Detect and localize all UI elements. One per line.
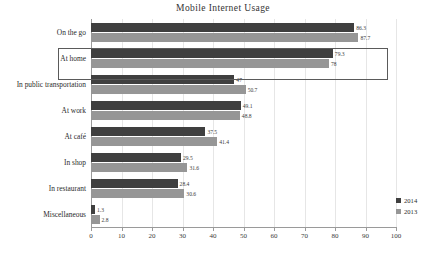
bar-group: 49.148.8 [91,100,396,120]
category-label: In restaurant [49,184,86,193]
bar-value-label: 48.8 [242,113,252,119]
x-axis-tick-label: 100 [391,232,402,240]
legend-item-2013[interactable]: 2013 [396,207,442,215]
bar-value-label: 87.7 [360,35,370,41]
bar-value-label: 28.4 [180,181,190,187]
bar-group: 4750.7 [91,74,396,94]
x-axis-tick [396,228,397,231]
chart-container: Mobile Internet Usage On the go86.387.7A… [0,0,446,262]
legend-swatch-icon [396,198,401,203]
chart-category-row: In shop29.531.6 [91,149,396,175]
bar-value-label: 2.8 [102,217,109,223]
bar-group: 28.430.6 [91,178,396,198]
x-axis-tick-label: 10 [118,232,125,240]
x-axis-tick-label: 70 [301,232,308,240]
legend-label: 2013 [404,208,417,215]
bar-value-label: 50.7 [248,87,258,93]
chart-category-row: Miscellaneous1.32.8 [91,201,396,227]
x-axis-tick [305,228,306,231]
bar-2014: 28.4 [91,179,178,188]
bar-2013: 78 [91,59,329,68]
category-label: Miscellaneous [43,210,86,219]
bar-value-label: 49.1 [243,103,253,109]
bar-2013: 87.7 [91,33,358,42]
bar-2013: 30.6 [91,189,184,198]
bar-2013: 41.4 [91,137,217,146]
bar-value-label: 79.3 [335,51,345,57]
x-axis-tick-label: 30 [179,232,186,240]
bar-value-label: 37.5 [207,129,217,135]
category-label: In public transportation [17,80,86,89]
chart-title: Mobile Internet Usage [0,3,446,13]
x-axis-tick-label: 60 [271,232,278,240]
bar-group: 29.531.6 [91,152,396,172]
bar-2014: 47 [91,75,234,84]
bar-2013: 31.6 [91,163,187,172]
bar-value-label: 30.6 [186,191,196,197]
category-label: At work [62,106,86,115]
x-axis-tick-label: 20 [149,232,156,240]
x-axis-tick-label: 50 [240,232,247,240]
bar-group: 79.378 [91,48,396,68]
bar-group: 37.541.4 [91,126,396,146]
bar-2014: 49.1 [91,101,241,110]
x-axis-tick [183,228,184,231]
x-axis-tick-label: 80 [332,232,339,240]
chart-category-row: At work49.148.8 [91,97,396,123]
chart-category-row: At home79.378 [91,45,396,71]
chart-category-row: On the go86.387.7 [91,19,396,45]
chart-legend: 20142013 [396,196,442,218]
chart-category-row: In public transportation4750.7 [91,71,396,97]
bar-value-label: 1.3 [97,207,104,213]
bar-2014: 1.3 [91,205,95,214]
legend-item-2014[interactable]: 2014 [396,196,442,204]
x-axis-tick [213,228,214,231]
bar-value-label: 78 [331,61,337,67]
category-label: On the go [57,28,86,37]
bar-value-label: 41.4 [219,139,229,145]
bar-value-label: 31.6 [189,165,199,171]
chart-category-row: At café37.541.4 [91,123,396,149]
plot-area: On the go86.387.7At home79.378In public … [91,19,396,227]
category-label: At café [64,132,86,141]
category-label: In shop [64,158,86,167]
x-axis-tick [274,228,275,231]
category-label: At home [60,54,86,63]
bar-2013: 48.8 [91,111,240,120]
x-axis-tick [335,228,336,231]
chart-category-row: In restaurant28.430.6 [91,175,396,201]
legend-swatch-icon [396,209,401,214]
bar-value-label: 47 [236,77,242,83]
bar-2014: 86.3 [91,23,354,32]
bar-2013: 50.7 [91,85,246,94]
x-axis-tick [244,228,245,231]
x-axis-tick [152,228,153,231]
bar-2014: 29.5 [91,153,181,162]
legend-label: 2014 [404,197,417,204]
bar-2013: 2.8 [91,215,100,224]
x-axis-tick-label: 40 [210,232,217,240]
x-axis-tick [122,228,123,231]
bar-2014: 79.3 [91,49,333,58]
x-axis-tick-label: 90 [362,232,369,240]
x-axis-tick [366,228,367,231]
bar-group: 1.32.8 [91,204,396,224]
bar-2014: 37.5 [91,127,205,136]
bar-value-label: 29.5 [183,155,193,161]
x-axis-tick [91,228,92,231]
bar-value-label: 86.3 [356,25,366,31]
x-axis-tick-label: 0 [89,232,93,240]
bar-group: 86.387.7 [91,22,396,42]
